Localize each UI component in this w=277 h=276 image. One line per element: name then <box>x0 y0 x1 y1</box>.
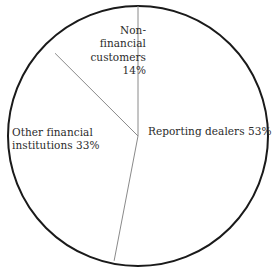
pie-chart-graphic <box>0 0 277 276</box>
pie-slice-reporting-dealers <box>114 6 277 266</box>
pie-chart: Non- financial customers 14% Other finan… <box>0 0 277 276</box>
